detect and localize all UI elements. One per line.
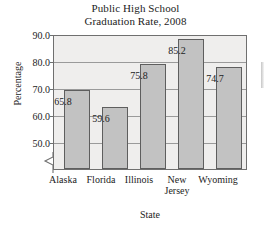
bar-chart-figure: Public High School Graduation Rate, 2008… <box>0 0 271 229</box>
bar-value-new-jersey: 85.2 <box>155 45 199 56</box>
x-tick-label-new-jersey-line-2: Jersey <box>155 185 199 196</box>
bar-value-wyoming: 74.7 <box>193 73 237 84</box>
y-axis-title: Percentage <box>12 49 23 119</box>
x-tick-label-wyoming: Wyoming <box>193 174 243 185</box>
y-axis-ticks: 90.0 80.0 70.0 60.0 50.0 <box>0 0 50 229</box>
bar-new-jersey[interactable] <box>178 39 204 169</box>
scan-artifact <box>261 62 264 88</box>
y-tick-label-90: 90.0 <box>2 31 50 41</box>
x-tick-label-florida-line-1: Florida <box>87 174 116 185</box>
y-tick-label-70: 70.0 <box>2 85 50 95</box>
y-tick-label-50: 50.0 <box>2 139 50 149</box>
y-tick-label-60: 60.0 <box>2 112 50 122</box>
x-tick-label-illinois-line-1: Illinois <box>125 174 153 185</box>
bar-value-florida: 59.6 <box>79 113 123 124</box>
x-tick-label-wyoming-line-1: Wyoming <box>198 174 237 185</box>
x-tick-label-new-jersey-line-1: New <box>168 174 187 185</box>
x-axis-title: State <box>110 209 190 220</box>
y-tick-label-80: 80.0 <box>2 58 50 68</box>
bar-value-alaska: 65.8 <box>41 96 85 107</box>
bar-value-illinois: 75.8 <box>117 70 161 81</box>
x-tick-label-alaska-line-1: Alaska <box>49 174 77 185</box>
